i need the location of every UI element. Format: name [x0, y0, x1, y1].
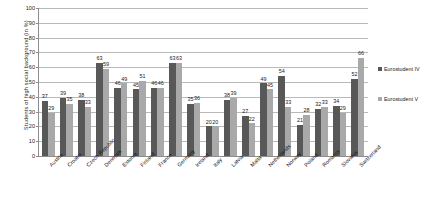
bar-value-label: 29 [48, 106, 54, 111]
bar-value-label: 38 [78, 93, 84, 98]
bar [85, 107, 92, 156]
bar-group: 2722 [239, 8, 257, 156]
x-tick: Estonia [112, 157, 130, 203]
bar-group: 3935 [57, 8, 75, 156]
x-tick: Czech Republic [75, 157, 93, 203]
bar-value-label: 49 [121, 77, 127, 82]
bar-value-label: 45 [133, 83, 139, 88]
bar-value-label: 20 [206, 120, 212, 125]
legend-label: Eurostudent V [384, 96, 418, 102]
bar-container: 33 [285, 8, 292, 156]
plot-area: 1009080706050403020100 37293935383363594… [38, 8, 368, 156]
bar-value-label: 52 [352, 72, 358, 77]
bar-group: 2128 [294, 8, 312, 156]
y-tick-label: 40 [29, 94, 35, 100]
bar-value-label: 33 [285, 100, 291, 105]
bar-value-label: 39 [231, 91, 237, 96]
bar [249, 123, 256, 156]
bar-value-label: 66 [358, 51, 364, 56]
bar-group: 3233 [312, 8, 330, 156]
y-tick-label: 50 [29, 79, 35, 85]
bar-group: 2020 [203, 8, 221, 156]
bar-value-label: 38 [224, 93, 230, 98]
y-tick-label: 80 [29, 35, 35, 41]
bar-container: 28 [303, 8, 310, 156]
x-axis-labels: AustriaCroatiaCzech RepublicDenmarkEston… [38, 157, 368, 203]
bar-value-label: 63 [97, 56, 103, 61]
bar-value-label: 28 [303, 108, 309, 113]
bar-group: 3729 [39, 8, 57, 156]
y-tick-label: 100 [26, 5, 35, 11]
bar-container: 33 [85, 8, 92, 156]
bar-group: 4945 [258, 8, 276, 156]
bar-value-label: 20 [212, 120, 218, 125]
legend-item-series-1: Eurostudent IV [378, 66, 442, 72]
x-tick: Switzerland [349, 157, 367, 203]
bar-value-label: 29 [340, 106, 346, 111]
bar [139, 81, 146, 156]
bar-container: 45 [267, 8, 274, 156]
x-tick: Norway [276, 157, 294, 203]
x-tick: Netherlands [258, 157, 276, 203]
x-tick: Germany [167, 157, 185, 203]
bar [230, 98, 237, 156]
y-tick-label: 90 [29, 20, 35, 26]
bar-value-label: 49 [260, 77, 266, 82]
bar-value-label: 22 [249, 117, 255, 122]
bar-group: 4649 [112, 8, 130, 156]
bar-value-label: 36 [194, 96, 200, 101]
x-tick: Italy [203, 157, 221, 203]
bar-container: 29 [340, 8, 347, 156]
chart-legend: Eurostudent IV Eurostudent V [378, 66, 442, 126]
y-tick-label: 10 [29, 138, 35, 144]
legend-swatch-icon [378, 67, 382, 71]
bar [358, 58, 365, 156]
bar [48, 113, 55, 156]
bar-container: 29 [48, 8, 55, 156]
bar-value-label: 33 [85, 100, 91, 105]
bar-value-label: 51 [139, 74, 145, 79]
bar-value-label: 34 [333, 99, 339, 104]
bar [157, 88, 164, 156]
bar-group: 6363 [167, 8, 185, 156]
bar-group: 4646 [148, 8, 166, 156]
x-tick: Denmark [94, 157, 112, 203]
bar-value-label: 54 [279, 69, 285, 74]
bar-container: 51 [139, 8, 146, 156]
bar-value-label: 45 [267, 83, 273, 88]
bar-container: 36 [194, 8, 201, 156]
bar-group: 5266 [349, 8, 367, 156]
bar-value-label: 33 [322, 100, 328, 105]
bar-value-label: 46 [115, 81, 121, 86]
bar-container: 63 [176, 8, 183, 156]
bar-group: 3429 [331, 8, 349, 156]
x-tick: Malta [239, 157, 257, 203]
bar-value-label: 35 [188, 97, 194, 102]
legend-label: Eurostudent IV [384, 66, 420, 72]
bar [340, 113, 347, 156]
bar-container: 49 [121, 8, 128, 156]
bar-value-label: 63 [169, 56, 175, 61]
bar-value-label: 27 [242, 109, 248, 114]
x-tick: France [148, 157, 166, 203]
bar-container: 22 [249, 8, 256, 156]
x-tick: Latvia [221, 157, 239, 203]
bar-container: 20 [212, 8, 219, 156]
y-tick-label: 60 [29, 64, 35, 70]
bar-container: 59 [103, 8, 110, 156]
bar-container: 46 [157, 8, 164, 156]
x-tick: Finland [130, 157, 148, 203]
x-tick: Croatia [57, 157, 75, 203]
x-tick: Romania [312, 157, 330, 203]
bar [303, 115, 310, 156]
bar-value-label: 35 [67, 97, 73, 102]
bar-group: 4551 [130, 8, 148, 156]
bar-value-label: 46 [158, 81, 164, 86]
y-tick-label: 20 [29, 123, 35, 129]
bar-container: 66 [358, 8, 365, 156]
bar [121, 83, 128, 156]
y-tick-label: 70 [29, 49, 35, 55]
bar-group: 6359 [94, 8, 112, 156]
bar [194, 103, 201, 156]
bar-groups: 3729393538336359464945514646636335362020… [38, 8, 368, 156]
